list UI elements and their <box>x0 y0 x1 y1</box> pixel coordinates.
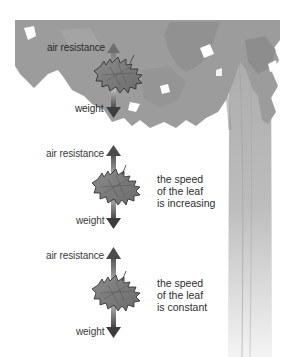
top-air-resistance-label: air resistance <box>47 42 105 53</box>
middle-caption: the speed of the leaf is increasing <box>157 173 215 209</box>
caption-line: the speed <box>157 173 215 185</box>
falling-leaf-middle <box>92 165 140 205</box>
top-weight-label: weight <box>75 103 103 114</box>
weight-arrow-head <box>106 327 121 338</box>
caption-line: of the leaf <box>157 289 207 301</box>
middle-weight-label: weight <box>76 215 104 226</box>
bottom-air-resistance-label: air resistance <box>46 250 104 261</box>
bottom-weight-label: weight <box>76 326 104 337</box>
air-resistance-arrow-head <box>106 145 121 156</box>
caption-line: is increasing <box>157 197 215 209</box>
bottom-caption: the speed of the leaf is constant <box>157 277 207 313</box>
middle-air-resistance-label: air resistance <box>46 148 104 159</box>
air-resistance-arrow-head <box>106 247 121 259</box>
caption-line: the speed <box>157 277 207 289</box>
tree-illustration <box>0 0 298 357</box>
caption-line: of the leaf <box>157 185 215 197</box>
weight-arrow-head <box>106 218 121 229</box>
falling-leaf-bottom <box>92 271 140 311</box>
caption-line: is constant <box>157 301 207 313</box>
falling-leaf-diagram: air resistance weight air resistance wei… <box>0 0 298 357</box>
